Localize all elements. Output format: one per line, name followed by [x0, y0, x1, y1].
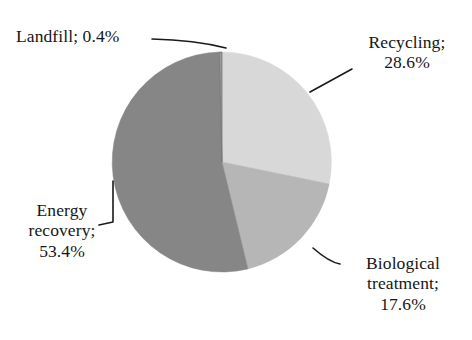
- pie-chart-figure: Landfill; 0.4% Recycling; 28.6% Biologic…: [0, 0, 472, 340]
- pie-label-energy-recovery: Energy recovery; 53.4%: [6, 200, 118, 261]
- pie-label-landfill: Landfill; 0.4%: [16, 26, 119, 46]
- leader-line-landfill: [152, 39, 226, 48]
- pie-slice-recycling[interactable]: [222, 52, 331, 184]
- pie-label-biological-treatment: Biological treatment; 17.6%: [336, 253, 470, 314]
- pie-label-recycling: Recycling; 28.6%: [344, 32, 470, 73]
